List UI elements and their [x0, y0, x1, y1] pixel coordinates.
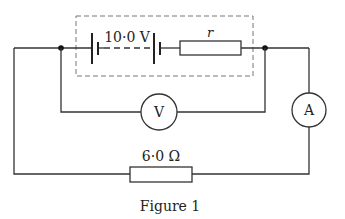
internal-resistor [180, 41, 241, 55]
figure-caption: Figure 1 [140, 198, 201, 214]
ammeter-label: A [303, 102, 315, 118]
internal-resistance-label: r [207, 25, 214, 40]
external-resistor-label: 6·0 Ω [142, 148, 180, 164]
circuit-diagram: 10·0 V r V A 6·0 Ω Figure 1 [0, 0, 345, 219]
battery-emf-label: 10·0 V [104, 29, 151, 45]
battery-enclosure-box [76, 16, 253, 76]
voltmeter-label: V [153, 104, 165, 120]
external-resistor [130, 167, 192, 182]
